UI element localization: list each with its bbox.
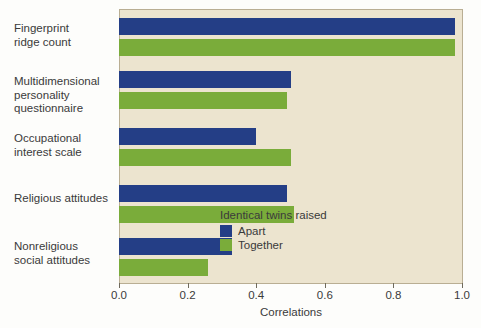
bar [119, 185, 287, 202]
category-label-line: Occupational [14, 132, 114, 146]
x-axis-tick-label: 0.2 [168, 289, 208, 301]
category-label-line: interest scale [14, 146, 114, 160]
category-label-multidimensional-personality-questionnaire: Multidimensional personality questionnai… [14, 75, 114, 116]
bar [119, 259, 208, 276]
bar [119, 39, 455, 56]
category-label-line: Multidimensional [14, 75, 114, 89]
legend-label-apart: Apart [238, 225, 266, 237]
x-axis-title: Correlations [119, 306, 463, 318]
x-axis-tick [119, 283, 120, 288]
x-axis-tick-label: 0.4 [236, 289, 276, 301]
bar [119, 238, 232, 255]
category-label-line: questionnaire [14, 102, 114, 116]
x-axis-tick [325, 283, 326, 288]
bar-chart-figure: Fingerprint ridge count Multidimensional… [0, 0, 481, 328]
category-label-line: personality [14, 89, 114, 103]
category-label-fingerprint-ridge-count: Fingerprint ridge count [14, 22, 114, 49]
category-label-religious-attitudes: Religious attitudes [14, 192, 114, 206]
x-axis-tick-label: 0.8 [373, 289, 413, 301]
legend-swatch-together-icon [220, 239, 232, 251]
x-axis-tick-label: 0.0 [99, 289, 139, 301]
legend-item-together[interactable]: Together [220, 239, 327, 251]
bar [119, 71, 291, 88]
bar [119, 18, 455, 35]
legend-label-together: Together [238, 239, 283, 251]
category-label-line: Nonreligious [14, 240, 114, 254]
category-label-nonreligious-social-attitudes: Nonreligious social attitudes [14, 240, 114, 267]
x-axis-tick [256, 283, 257, 288]
legend: Identical twins raised Apart Together [220, 209, 327, 251]
category-label-line: Fingerprint [14, 22, 114, 36]
x-axis-tick-label: 0.6 [305, 289, 345, 301]
category-label-occupational-interest-scale: Occupational interest scale [14, 132, 114, 159]
bar [119, 128, 256, 145]
legend-title: Identical twins raised [220, 209, 327, 221]
category-label-line: Religious attitudes [14, 192, 114, 206]
category-label-line: ridge count [14, 36, 114, 50]
category-label-line: social attitudes [14, 254, 114, 268]
bar [119, 149, 291, 166]
legend-swatch-apart-icon [220, 225, 232, 237]
legend-item-apart[interactable]: Apart [220, 225, 327, 237]
x-axis-tick [188, 283, 189, 288]
x-axis-tick [462, 283, 463, 288]
bar [119, 92, 287, 109]
x-axis-tick [393, 283, 394, 288]
x-axis-tick-label: 1.0 [442, 289, 481, 301]
